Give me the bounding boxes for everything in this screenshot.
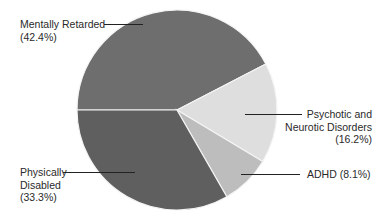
label-mr-name: Mentally Retarded	[20, 18, 105, 31]
label-pd-line1: Physically	[20, 166, 67, 179]
label-adhd-text: ADHD (8.1%)	[307, 168, 371, 181]
label-pnd-line2: Neurotic Disorders	[285, 121, 372, 134]
label-physically-disabled: Physically Disabled (33.3%)	[20, 166, 67, 204]
label-pd-line2: Disabled	[20, 179, 67, 192]
label-psychotic-neurotic: Psychotic and Neurotic Disorders (16.2%)	[285, 108, 372, 146]
label-pd-pct: (33.3%)	[20, 191, 67, 204]
label-mr-pct: (42.4%)	[20, 31, 105, 44]
label-pnd-pct: (16.2%)	[285, 133, 372, 146]
label-mentally-retarded: Mentally Retarded (42.4%)	[20, 18, 105, 43]
pie-slices	[77, 10, 277, 210]
label-adhd: ADHD (8.1%)	[307, 168, 371, 181]
label-pnd-line1: Psychotic and	[285, 108, 372, 121]
